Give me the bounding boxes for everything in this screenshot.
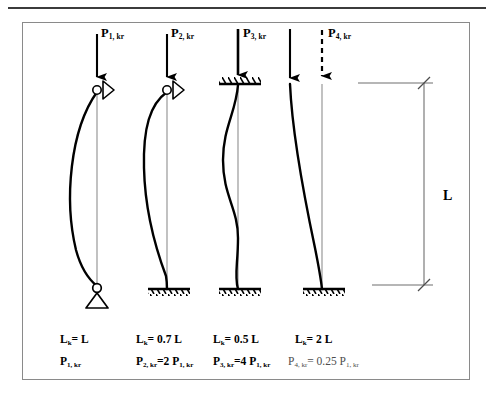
case-2-pkr-symbol: P [136, 355, 143, 367]
case-1-pkr-symbol: P [60, 355, 67, 367]
case-3-pkr-ref-subscript: 1, kr [256, 361, 270, 369]
case-2-load-symbol: P [171, 26, 179, 40]
case-2-pkr-value: =2 P [157, 355, 179, 367]
case-2-load-subscript: 2, kr [179, 32, 195, 41]
case-1-lk-symbol: L [60, 333, 68, 345]
case-3-lk-value: = 0.5 L [225, 333, 259, 345]
case-3-lk-symbol: L [213, 333, 221, 345]
case-3-critical-load: P3, kr=4 P1, kr [213, 356, 270, 369]
case-1-critical-load: P1, kr [60, 356, 81, 369]
case-3-load-symbol: P [243, 26, 251, 40]
case-1-pkr-subscript: 1, kr [67, 361, 81, 369]
case-2-lk-value: = 0.7 L [148, 333, 182, 345]
case-3-effective-length: Lk= 0.5 L [213, 334, 259, 347]
case-4-pkr-value: = 0.25 P [307, 355, 346, 367]
case-3-pkr-subscript: 3, kr [220, 361, 234, 369]
case-3-load-subscript: 3, kr [251, 32, 267, 41]
case-3-pkr-symbol: P [213, 355, 220, 367]
case-1-effective-length: Lk= L [60, 334, 89, 347]
length-dimension-label: L [443, 189, 452, 203]
figure-frame [22, 22, 470, 380]
case-4-critical-load: P4, kr= 0.25 P1, kr [288, 356, 359, 369]
case-4-load-symbol: P [328, 26, 336, 40]
case-1-load-subscript: 1, kr [109, 32, 125, 41]
case-4-lk-value: = 2 L [307, 333, 333, 345]
case-1-load-symbol: P [101, 26, 109, 40]
top-divider-rule [8, 7, 486, 9]
case-4-lk-symbol: L [295, 333, 303, 345]
case-1-load-label: P1, kr [101, 27, 124, 41]
case-3-pkr-value: =4 P [234, 355, 256, 367]
case-1-lk-value: = L [72, 333, 89, 345]
case-4-pkr-subscript: 4, kr [294, 361, 307, 369]
euler-buckling-figure: P1, kr P2, kr P3, kr P4, kr L Lk= L Lk= … [0, 0, 494, 404]
case-2-pkr-subscript: 2, kr [143, 361, 157, 369]
case-2-critical-load: P2, kr=2 P1, kr [136, 356, 193, 369]
case-4-effective-length: Lk= 2 L [295, 334, 332, 347]
case-2-lk-symbol: L [136, 333, 144, 345]
case-2-effective-length: Lk= 0.7 L [136, 334, 182, 347]
case-2-pkr-ref-subscript: 1, kr [179, 361, 193, 369]
case-4-load-subscript: 4, kr [336, 32, 352, 41]
case-4-pkr-ref-subscript: 1, kr [346, 361, 359, 369]
case-4-load-label: P4, kr [328, 27, 351, 41]
case-2-load-label: P2, kr [171, 27, 194, 41]
case-3-load-label: P3, kr [243, 27, 266, 41]
